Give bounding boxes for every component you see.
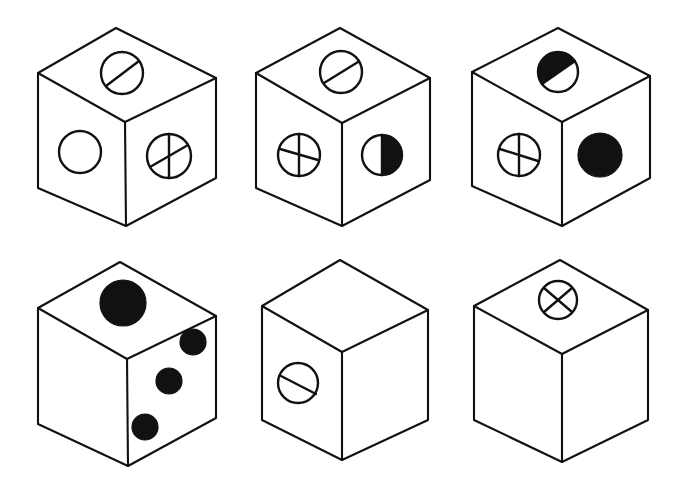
cube-4	[8, 248, 224, 483]
cube-4-vertical-edge	[127, 359, 128, 466]
cube-5-outline	[262, 260, 428, 460]
cube-1-left-plain-circle	[59, 131, 101, 173]
cube-3	[452, 10, 668, 240]
cube-4-right-dot-2	[156, 368, 182, 394]
figure-canvas	[0, 0, 678, 488]
cube-5	[230, 248, 446, 483]
cube-3-right-solid-circle	[578, 133, 622, 177]
cube-2	[230, 10, 446, 240]
cube-4-right-dot-3	[132, 414, 158, 440]
cube-1	[8, 10, 224, 240]
cube-4-right-dot-1	[180, 329, 206, 355]
cube-1-vertical-edge	[125, 122, 126, 226]
cube-5-left-circle	[278, 363, 318, 403]
cube-4-top-solid-dot	[100, 280, 146, 326]
cube-6	[452, 248, 668, 483]
